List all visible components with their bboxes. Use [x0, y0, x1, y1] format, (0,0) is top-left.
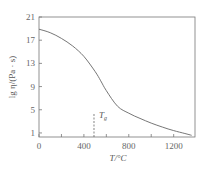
- y-axis-label: lg η/(Pa · s): [7, 56, 17, 98]
- x-axis: 04008001200: [37, 134, 183, 151]
- y-tick-label: 9: [31, 82, 36, 92]
- data-line: [39, 29, 192, 135]
- x-tick-label: 400: [77, 141, 91, 151]
- x-tick-label: 1200: [165, 141, 184, 151]
- y-tick-label: 17: [26, 35, 36, 45]
- tg-label: Tg: [99, 110, 107, 121]
- viscosity-chart: 159131721 04008001200 Tg T/°C lg η/(Pa ·…: [0, 0, 210, 177]
- y-tick-label: 21: [26, 12, 35, 22]
- plot-frame: [39, 17, 195, 137]
- y-tick-label: 1: [31, 128, 36, 138]
- y-axis: 159131721: [26, 12, 42, 138]
- y-tick-label: 13: [26, 58, 36, 68]
- x-axis-label: T/°C: [109, 153, 127, 163]
- y-tick-label: 5: [31, 105, 36, 115]
- x-tick-label: 800: [122, 141, 136, 151]
- x-tick-label: 0: [37, 141, 42, 151]
